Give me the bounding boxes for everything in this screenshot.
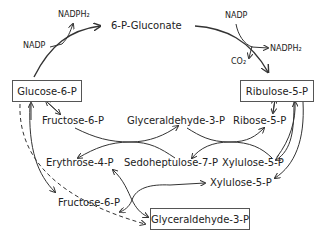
- glucose-6-p-box: Glucose-6-P: [12, 80, 82, 102]
- glyceraldehyde-3-p-box: Glyceraldehyde-3-P: [150, 208, 250, 230]
- ribose-5-p-label: Ribose-5-P: [233, 116, 286, 126]
- co2-label: CO₂: [231, 58, 246, 66]
- ribulose-5-p-label: Ribulose-5-P: [246, 86, 308, 97]
- gluconate-label: 6-P-Gluconate: [111, 21, 182, 31]
- fructose-6-p-top-label: Fructose-6-P: [42, 116, 104, 126]
- glyceraldehyde-3-p-box-label: Glyceraldehyde-3-P: [151, 214, 249, 225]
- xylulose-5-p-low-label: Xylulose-5-P: [210, 178, 272, 188]
- ribulose-5-p-box: Ribulose-5-P: [240, 80, 314, 102]
- nadp-right-label: NADP: [225, 12, 247, 20]
- xylulose-5-p-mid-label: Xylulose-5-P: [222, 158, 284, 168]
- nadph2-right-label: NADPH₂: [270, 45, 302, 53]
- glyceraldehyde-3-p-mid-label: Glyceraldehyde-3-P: [127, 116, 225, 126]
- glucose-6-p-label: Glucose-6-P: [17, 86, 76, 97]
- nadp-left-label: NADP: [23, 42, 45, 50]
- erythrose-4-p-label: Erythrose-4-P: [46, 158, 114, 168]
- sedoheptulose-7-p-label: Sedoheptulose-7-P: [124, 158, 218, 168]
- fructose-6-p-bottom-label: Fructose-6-P: [58, 198, 120, 208]
- nadph2-left-label: NADPH₂: [58, 11, 90, 19]
